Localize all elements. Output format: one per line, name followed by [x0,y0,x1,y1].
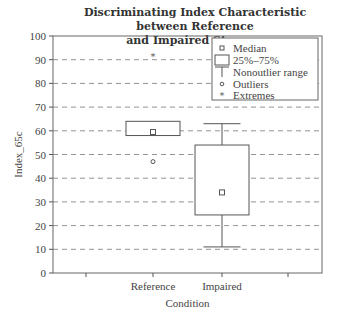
legend-box-icon [215,55,229,65]
x-axis-label: Condition [165,297,210,309]
legend-extreme-icon: * [220,91,225,101]
y-tick-label: 20 [35,220,47,232]
legend-label: Extremes [233,89,275,101]
median-marker [151,129,156,134]
median-marker [220,190,225,195]
legend-outlier-icon [220,82,224,86]
y-tick-label: 10 [35,243,47,255]
y-tick-label: 60 [35,125,47,137]
y-tick-label: 0 [41,267,47,279]
outlier-marker [151,160,155,164]
x-tick-label: Reference [131,280,176,292]
y-tick-label: 100 [30,30,47,42]
legend-median-icon [220,46,224,50]
box-plot: 0102030405060708090100ReferenceImpairedC… [0,0,338,321]
y-tick-label: 80 [35,77,47,89]
iqr-box [195,145,249,215]
y-tick-label: 30 [35,196,47,208]
y-tick-label: 40 [35,172,47,184]
y-tick-label: 50 [35,149,47,161]
legend-label: Median [233,42,267,54]
y-tick-label: 70 [35,101,47,113]
legend-label: 25%–75% [233,54,279,66]
legend-label: Nonoutlier range [233,66,308,78]
y-axis-label: Index_65c [12,131,24,178]
extreme-marker: * [151,51,156,62]
x-tick-label: Impaired [202,280,242,292]
y-tick-label: 90 [35,54,47,66]
